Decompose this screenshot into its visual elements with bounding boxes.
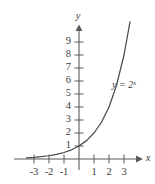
x-tick-label: 3 xyxy=(121,166,126,177)
x-tick-label: -1 xyxy=(60,166,69,177)
y-tick-label: 7 xyxy=(66,61,71,72)
y-tick-label: 2 xyxy=(66,126,71,137)
y-axis-arrow-icon xyxy=(76,25,83,32)
y-tick-label: 1 xyxy=(66,139,71,150)
y-tick-label: 9 xyxy=(66,35,71,46)
x-tick-label: -2 xyxy=(45,166,54,177)
x-axis-arrow-icon xyxy=(136,156,143,163)
curve-label-exponent: x xyxy=(132,78,136,85)
x-tick-label: -3 xyxy=(30,166,39,177)
exponential-function-graph: -3 -2 -1 1 2 3 1 2 3 4 5 6 7 8 9 x y y =… xyxy=(0,0,155,184)
y-tick-label: 3 xyxy=(66,113,71,124)
x-tick-label: 2 xyxy=(106,166,111,177)
y-axis-label: y xyxy=(75,10,81,21)
y-tick-label: 6 xyxy=(66,74,71,85)
curve-label-base: y = 2 xyxy=(111,79,133,90)
graph-canvas: -3 -2 -1 1 2 3 1 2 3 4 5 6 7 8 9 x y y =… xyxy=(0,0,155,184)
y-tick-label: 8 xyxy=(66,48,71,59)
y-tick-label: 4 xyxy=(66,100,72,111)
curve-label: y = 2x xyxy=(111,78,136,90)
x-tick-label: 1 xyxy=(91,166,96,177)
y-tick-label: 5 xyxy=(66,87,71,98)
x-axis-label: x xyxy=(145,152,151,163)
